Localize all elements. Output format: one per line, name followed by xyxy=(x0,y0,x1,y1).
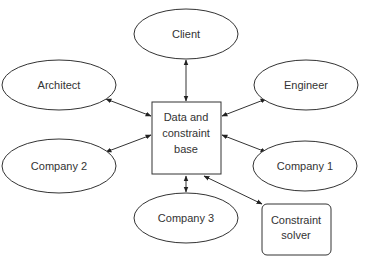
edge-architect xyxy=(106,99,151,116)
node-engineer-label: Engineer xyxy=(284,79,328,91)
node-company-3: Company 3 xyxy=(134,193,238,243)
node-data-base-label-line-2: constraint xyxy=(162,127,210,139)
edge-company-2 xyxy=(106,135,151,152)
node-architect-label: Architect xyxy=(38,79,81,91)
edge-company-1 xyxy=(222,135,266,152)
node-constraint-solver: Constraint solver xyxy=(262,204,331,255)
collaboration-diagram: Client Architect Engineer Company 2 Comp… xyxy=(0,0,371,260)
node-company-1: Company 1 xyxy=(253,141,357,191)
node-architect: Architect xyxy=(2,60,116,110)
node-company-2: Company 2 xyxy=(2,139,116,193)
node-company-3-label: Company 3 xyxy=(158,212,214,224)
node-constraint-solver-label-line-2: solver xyxy=(281,229,311,241)
node-company-1-label: Company 1 xyxy=(277,160,333,172)
node-engineer: Engineer xyxy=(254,60,358,110)
node-constraint-solver-label-line-1: Constraint xyxy=(271,214,321,226)
node-company-2-label: Company 2 xyxy=(31,160,87,172)
node-data-base-label-line-1: Data and xyxy=(164,111,209,123)
node-data-base-label-line-3: base xyxy=(174,143,198,155)
edge-engineer xyxy=(222,99,266,116)
node-client: Client xyxy=(134,9,238,59)
node-client-label: Client xyxy=(172,28,200,40)
node-data-base: Data and constraint base xyxy=(152,102,221,174)
